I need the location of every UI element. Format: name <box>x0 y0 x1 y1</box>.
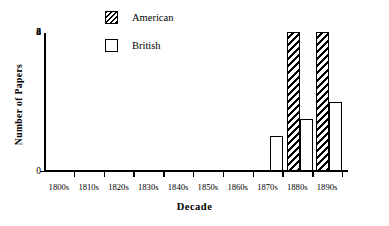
x-tick-mark <box>342 171 343 177</box>
x-axis-title-text: Decade <box>177 201 213 212</box>
y-axis-line <box>44 33 46 172</box>
x-tick-label-1860s: 1860s <box>227 183 248 192</box>
x-tick-label-1850s: 1850s <box>198 183 219 192</box>
chart-figure: American British 0 2 4 6 8 <box>0 0 389 226</box>
hatched-square-icon <box>105 11 118 24</box>
x-tick-label-1880s: 1880s <box>287 183 308 192</box>
x-tick-label-1820s: 1820s <box>108 183 129 192</box>
x-tick-mark <box>193 171 194 177</box>
bar-british-1890s <box>329 102 342 172</box>
x-tick-label-1840s: 1840s <box>168 183 189 192</box>
x-tick-label-1810s: 1810s <box>78 183 99 192</box>
bar-british-1870s <box>270 136 283 171</box>
x-axis-title: Decade <box>0 201 389 212</box>
legend-item-american: American <box>105 9 173 25</box>
x-tick-mark <box>74 171 75 177</box>
bar-american-1880s <box>287 32 300 171</box>
y-tick-label: 0 <box>25 166 41 178</box>
bar-british-1880s <box>300 119 313 171</box>
plot-area: 0 2 4 6 8 1800s 1810s 1820s 18 <box>44 33 348 172</box>
x-tick-mark <box>163 171 164 177</box>
x-tick-mark <box>133 171 134 177</box>
x-tick-mark <box>282 171 283 177</box>
x-tick-label-1830s: 1830s <box>138 183 159 192</box>
y-axis-title-text: Number of Papers <box>14 63 25 144</box>
x-tick-mark <box>253 171 254 177</box>
x-tick-mark <box>223 171 224 177</box>
x-tick-label-1800s: 1800s <box>49 183 70 192</box>
x-tick-mark <box>104 171 105 177</box>
y-axis-title: Number of Papers <box>12 52 26 156</box>
x-tick-label-1870s: 1870s <box>257 183 278 192</box>
x-tick-mark <box>312 171 313 177</box>
legend-label-american: American <box>132 12 173 23</box>
bar-american-1890s <box>316 32 329 171</box>
x-tick-label-1890s: 1890s <box>317 183 338 192</box>
